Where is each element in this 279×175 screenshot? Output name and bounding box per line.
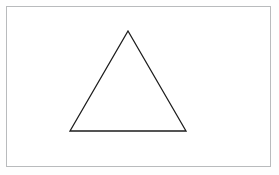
shape-layer	[0, 0, 279, 175]
triangle-shape	[70, 31, 186, 131]
figure-canvas	[0, 0, 279, 175]
